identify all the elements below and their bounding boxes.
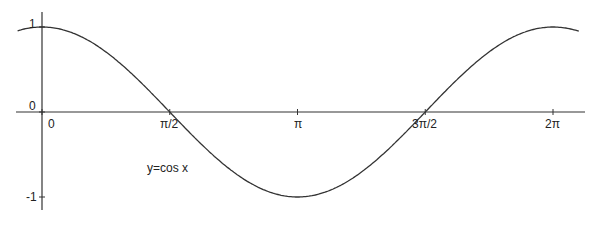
- x-tick-label-2pi: 2π: [545, 117, 560, 131]
- x-tick-label-pi: π: [294, 117, 302, 131]
- y-tick-label-0: 0: [29, 99, 36, 113]
- y-tick-label-1: 1: [29, 17, 36, 31]
- plot-area: [0, 0, 590, 225]
- curve-annotation: y=cos x: [147, 161, 188, 175]
- y-tick-label-neg1: -1: [26, 190, 37, 204]
- x-tick-label-3pi-half: 3π/2: [412, 117, 437, 131]
- x-tick-label-pi-half: π/2: [160, 117, 178, 131]
- cosine-chart: 1 0 -1 0 π/2 π 3π/2 2π y=cos x: [0, 0, 590, 225]
- x-tick-label-0: 0: [48, 117, 55, 131]
